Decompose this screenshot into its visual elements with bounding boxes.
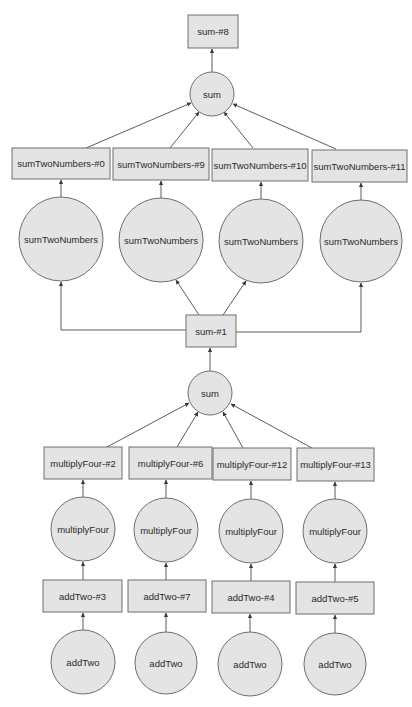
op-node-opSumTop[interactable]: sum [190,72,234,116]
op-node-opStn10[interactable]: sumTwoNumbers [219,199,303,283]
tensor-node-at5[interactable]: addTwo-#5 [296,582,374,614]
tensor-node-at4[interactable]: addTwo-#4 [212,581,290,613]
op-node-opMf6[interactable]: multiplyFour [134,498,198,562]
edge-sum1-to-opStn0 [61,282,186,330]
computation-graph: sum-#8sumsumTwoNumbers-#0sumTwoNumbers-#… [0,0,412,707]
node-label: multiplyFour [57,524,109,535]
node-label: addTwo [149,658,182,669]
node-label: sumTwoNumbers [124,235,198,246]
node-label: multiplyFour-#13 [300,459,371,470]
node-label: sumTwoNumbers [324,236,398,247]
tensor-node-mf6[interactable]: multiplyFour-#6 [129,447,212,479]
tensor-node-sum1[interactable]: sum-#1 [186,315,236,347]
tensor-node-at7[interactable]: addTwo-#7 [128,580,206,612]
tensor-node-stn11[interactable]: sumTwoNumbers-#11 [312,150,407,182]
node-label: sum [201,388,219,399]
tensor-node-stn10[interactable]: sumTwoNumbers-#10 [212,149,308,181]
node-label: multiplyFour [309,526,361,537]
tensor-node-mf13[interactable]: multiplyFour-#13 [297,448,374,481]
op-node-opAt5[interactable]: addTwo [304,633,366,695]
op-node-opMf2[interactable]: multiplyFour [51,497,115,561]
op-node-opStn9[interactable]: sumTwoNumbers [119,198,203,282]
node-label: multiplyFour [140,525,192,536]
node-label: addTwo-#3 [59,591,106,602]
op-node-opMf12[interactable]: multiplyFour [219,499,283,563]
node-label: sum-#1 [195,326,227,337]
node-label: addTwo-#5 [311,593,358,604]
node-label: addTwo [66,657,99,668]
op-node-opSumMid[interactable]: sum [188,371,232,415]
node-label: sumTwoNumbers-#9 [117,159,205,170]
op-node-opAt7[interactable]: addTwo [135,632,197,694]
edge-sum1-to-opStn10 [223,281,246,315]
node-label: sumTwoNumbers [24,234,98,245]
op-node-opMf13[interactable]: multiplyFour [303,499,367,563]
tensor-node-stn0[interactable]: sumTwoNumbers-#0 [12,148,110,179]
node-label: sum [203,89,221,100]
edge-mf12-to-opSumMid [223,412,243,448]
node-label: sum-#8 [197,26,229,37]
op-node-opAt3[interactable]: addTwo [51,630,115,694]
tensor-node-at3[interactable]: addTwo-#3 [43,580,122,612]
node-label: addTwo-#4 [227,592,274,603]
tensor-node-sum8[interactable]: sum-#8 [188,15,238,48]
node-label: addTwo [233,659,266,670]
node-label: multiplyFour-#6 [138,458,203,469]
edge-mf13-to-opSumMid [231,404,312,448]
edge-sum1-to-opStn11 [236,283,361,332]
tensor-node-stn9[interactable]: sumTwoNumbers-#9 [113,148,209,180]
node-label: multiplyFour-#2 [50,458,115,469]
node-label: sumTwoNumbers [224,236,298,247]
tensor-node-mf12[interactable]: multiplyFour-#12 [213,448,291,480]
node-label: sumTwoNumbers-#11 [313,161,405,172]
op-node-opStn0[interactable]: sumTwoNumbers [19,197,103,281]
node-label: sumTwoNumbers-#0 [17,158,105,169]
nodes-layer: sum-#8sumsumTwoNumbers-#0sumTwoNumbers-#… [12,15,407,696]
node-label: multiplyFour-#12 [217,459,288,470]
op-node-opAt4[interactable]: addTwo [218,632,282,696]
edge-stn9-to-opSumTop [170,112,199,148]
edge-stn10-to-opSumTop [224,112,253,148]
edge-mf6-to-opSumMid [177,412,198,447]
node-label: multiplyFour [225,526,277,537]
edge-sum1-to-opStn9 [176,280,199,315]
tensor-node-mf2[interactable]: multiplyFour-#2 [44,447,122,479]
node-label: sumTwoNumbers-#10 [214,160,307,171]
node-label: addTwo [318,659,351,670]
edge-mf2-to-opSumMid [107,403,189,447]
op-node-opStn11[interactable]: sumTwoNumbers [320,200,402,282]
node-label: addTwo-#7 [143,591,190,602]
